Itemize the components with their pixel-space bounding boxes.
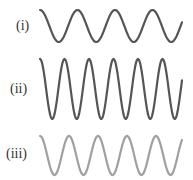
wave-i — [40, 10, 182, 42]
waves-canvas — [0, 0, 193, 180]
wave-iii — [40, 136, 182, 175]
wave-ii — [40, 59, 182, 119]
